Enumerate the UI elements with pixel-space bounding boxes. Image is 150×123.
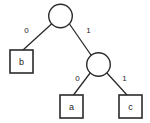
leaf-box-group: [10, 50, 142, 118]
edge-label-root-right-1: 1: [86, 26, 91, 35]
root-node-circle: [49, 4, 73, 28]
edge-group: [23, 24, 127, 95]
circle-node-group: [49, 4, 111, 76]
tree-canvas: b a c 0 1 0 1: [0, 0, 150, 123]
leaf-label-c: c: [128, 102, 133, 112]
internal-node-circle: [87, 53, 111, 77]
leaf-label-b: b: [19, 57, 24, 67]
leaf-label-a: a: [69, 102, 74, 112]
binary-tree-figure: b a c 0 1 0 1: [0, 0, 150, 123]
edge-label-internal-right-1: 1: [122, 74, 127, 83]
edge-label-root-left-0: 0: [24, 26, 29, 35]
edge-label-internal-left-0: 0: [75, 74, 80, 83]
